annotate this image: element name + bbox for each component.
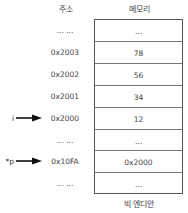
address-label: ... ...: [36, 19, 94, 41]
address-label: 0x2002: [36, 63, 94, 85]
arrow-right-icon: [16, 157, 42, 165]
address-label: 0x10FA: [36, 150, 94, 172]
pointer-p: *p: [2, 150, 42, 172]
address-label: 0x2001: [36, 85, 94, 107]
memory-block: ... 78 56 34 12 ... 0x2000 ...: [94, 19, 183, 194]
pointer-label: i: [2, 114, 14, 123]
memory-cell: 56: [95, 64, 182, 86]
address-label: 0x2003: [36, 41, 94, 63]
memory-cell: ...: [95, 130, 182, 152]
address-label: ... ...: [36, 129, 94, 151]
memory-cell: 78: [95, 42, 182, 64]
memory-column-header: 메모리: [94, 3, 184, 14]
address-label: ... ...: [36, 172, 94, 194]
memory-cell: 0x2000: [95, 151, 182, 173]
memory-cell: 34: [95, 86, 182, 108]
memory-cell: ...: [95, 173, 182, 195]
pointer-label: *p: [2, 157, 14, 166]
address-label: 0x2000: [36, 107, 94, 129]
memory-cell: ...: [95, 20, 182, 42]
pointer-i: i: [2, 107, 42, 129]
diagram-caption: 빅 엔디안: [94, 198, 184, 209]
address-column-header: 주소: [53, 3, 79, 14]
memory-cell: 12: [95, 108, 182, 130]
arrow-right-icon: [16, 114, 42, 122]
